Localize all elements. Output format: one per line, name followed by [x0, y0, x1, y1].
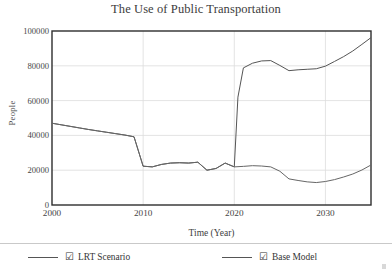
legend-item-base-model[interactable]: ☑ Base Model [222, 252, 317, 262]
series-line-lrt-scenario [52, 38, 371, 171]
corner-artifact [382, 264, 386, 269]
x-tick-label: 2010 [134, 208, 152, 218]
chart-container: The Use of Public Transportation People … [0, 0, 392, 273]
x-tick-label: 2020 [225, 208, 243, 218]
legend-line-swatch [222, 257, 252, 258]
plot-frame [52, 31, 371, 205]
legend-label: Base Model [272, 252, 317, 262]
x-tick-label: 2000 [43, 208, 61, 218]
x-tick-label: 2030 [316, 208, 334, 218]
chart-legend: ☑ LRT Scenario ☑ Base Model [0, 243, 392, 273]
legend-line-swatch [28, 257, 58, 258]
legend-item-lrt-scenario[interactable]: ☑ LRT Scenario [28, 252, 130, 262]
x-axis-label: Time (Year) [52, 228, 371, 238]
legend-checkbox-icon[interactable]: ☑ [259, 252, 268, 262]
series-lines [52, 38, 371, 183]
legend-label: LRT Scenario [78, 252, 130, 262]
series-line-base-model [52, 123, 371, 182]
legend-checkbox-icon[interactable]: ☑ [65, 252, 74, 262]
gridlines [52, 31, 371, 205]
